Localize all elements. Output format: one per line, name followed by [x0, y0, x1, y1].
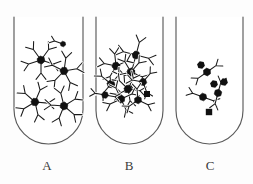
- test-tube-glass-c: [176, 17, 243, 144]
- antigen-core: [31, 98, 39, 105]
- tube-a: [14, 17, 84, 144]
- free-antigen-square: [144, 91, 150, 97]
- antigen-core: [203, 68, 210, 76]
- free-antigen-group-b: [144, 91, 150, 97]
- antigen-core: [60, 67, 68, 74]
- tube-c: [176, 17, 243, 144]
- tube-b: [90, 17, 163, 144]
- antigen-core: [102, 92, 109, 99]
- antigen-core: [60, 41, 65, 47]
- antigen-core: [135, 96, 142, 104]
- precipitin-reaction-figure: A B C: [0, 0, 253, 184]
- tube-label-b: B: [114, 158, 144, 174]
- tube-label-a: A: [32, 158, 62, 174]
- tubes-illustration: [0, 0, 253, 184]
- tube-label-c: C: [195, 158, 225, 174]
- free-antigen-square: [206, 109, 212, 115]
